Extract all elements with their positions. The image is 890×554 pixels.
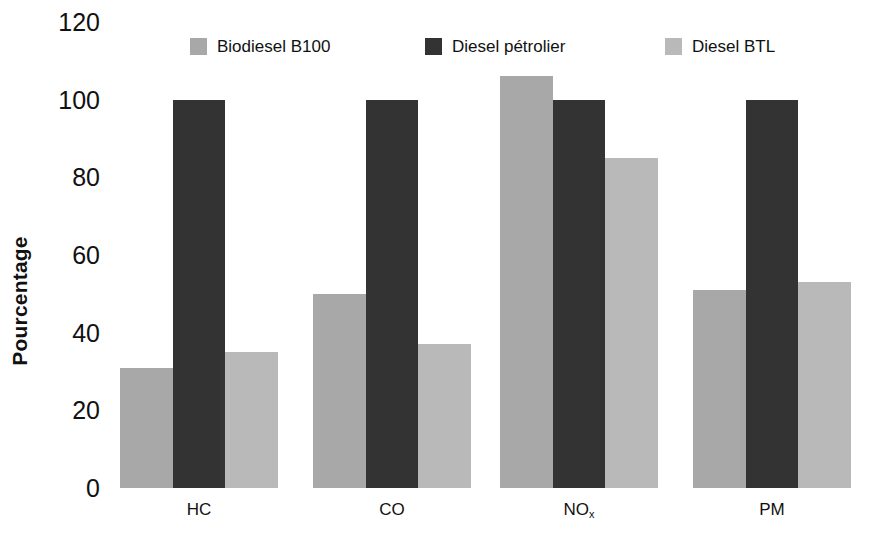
bar-pm-series-3: [798, 282, 851, 488]
y-axis-tick-label: 80: [28, 165, 100, 190]
y-axis-tick-label: 40: [28, 320, 100, 345]
y-axis-tick-label: 20: [28, 398, 100, 423]
bar-hc-series-2: [173, 100, 226, 488]
plot-area: HCCONOxPM: [110, 0, 890, 554]
bar-co-series-2: [366, 100, 419, 488]
bar-co-series-1: [313, 294, 366, 488]
legend-label: Biodiesel B100: [217, 38, 330, 55]
bar-pm-series-2: [746, 100, 799, 488]
x-axis-label-co: CO: [313, 500, 471, 520]
bar-pm-series-1: [693, 290, 746, 488]
x-axis-label-pm: PM: [693, 500, 851, 520]
bar-nox-series-2: [553, 100, 606, 488]
legend-item-3[interactable]: Diesel BTL: [665, 38, 775, 55]
y-axis-tick-label: 60: [28, 243, 100, 268]
legend-item-1[interactable]: Biodiesel B100: [190, 38, 330, 55]
x-axis-baseline: [110, 488, 880, 489]
bar-chart: Pourcentage 020406080100120 HCCONOxPM Bi…: [0, 0, 890, 554]
legend-swatch-icon: [665, 38, 682, 55]
legend-label: Diesel pétrolier: [452, 38, 565, 55]
chart-legend: Biodiesel B100Diesel pétrolierDiesel BTL: [190, 38, 830, 64]
x-axis-label-subscript: x: [589, 508, 595, 520]
x-axis-label-hc: HC: [120, 500, 278, 520]
y-axis-tick-label: 120: [28, 10, 100, 35]
legend-swatch-icon: [425, 38, 442, 55]
bar-group-pm: [693, 22, 851, 488]
bar-hc-series-3: [225, 352, 278, 488]
legend-item-2[interactable]: Diesel pétrolier: [425, 38, 565, 55]
y-axis-tick-label: 0: [28, 476, 100, 501]
y-axis-ticks: 020406080100120: [28, 0, 100, 554]
bar-hc-series-1: [120, 368, 173, 488]
bar-group-nox: [500, 22, 658, 488]
bar-nox-series-3: [605, 158, 658, 488]
bar-group-co: [313, 22, 471, 488]
bar-co-series-3: [418, 344, 471, 488]
bar-nox-series-1: [500, 76, 553, 488]
legend-label: Diesel BTL: [692, 38, 775, 55]
x-axis-label-nox: NOx: [500, 500, 658, 520]
bar-group-hc: [120, 22, 278, 488]
legend-swatch-icon: [190, 38, 207, 55]
y-axis-tick-label: 100: [28, 87, 100, 112]
